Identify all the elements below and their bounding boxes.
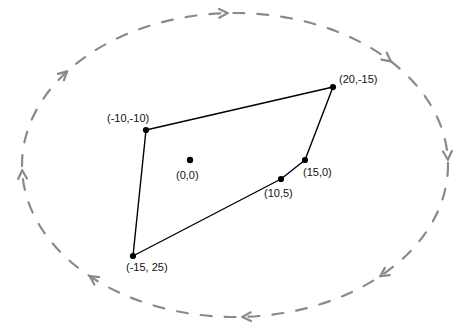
figure-canvas: (-10,-10)(20,-15)(15,0)(10,5)(-15, 25)(0… — [0, 0, 470, 333]
center-point-group — [187, 157, 193, 163]
orbit-group — [18, 9, 452, 321]
vertex-dot — [302, 157, 308, 163]
vertex-dot — [278, 176, 284, 182]
center-point-dot — [187, 157, 193, 163]
arrow-upper-right-icon — [381, 53, 390, 62]
vertex-dot — [143, 127, 149, 133]
vertex-dot — [130, 253, 136, 259]
arrow-right-icon — [443, 151, 452, 160]
figure-svg — [0, 0, 470, 333]
vertex-label: (-10,-10) — [107, 112, 149, 124]
vertex-label: (20,-15) — [339, 73, 378, 85]
vertex-label: (10,5) — [264, 187, 293, 199]
vertex-dot — [330, 84, 336, 90]
orbit-arrow-group — [18, 9, 452, 321]
vertex-label: (15,0) — [303, 166, 332, 178]
center-point-label: (0,0) — [176, 169, 199, 181]
arrow-left-icon — [18, 170, 27, 179]
vertex-label: (-15, 25) — [126, 261, 168, 273]
